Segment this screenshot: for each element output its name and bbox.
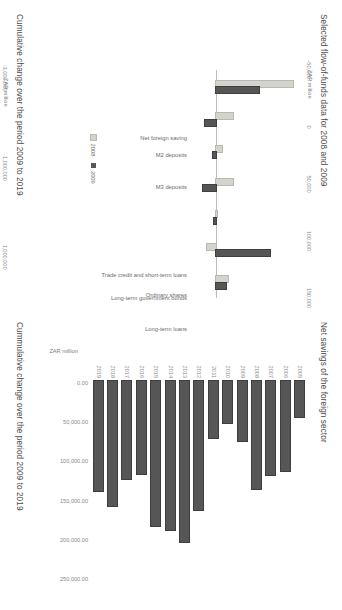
chart-legend: 2008 2009 (90, 134, 97, 184)
plot-area: 2005200620072008200920102011201220132014… (92, 380, 308, 576)
bar-2011: 2011 (208, 380, 219, 439)
y-axis-ticks: -3,000,000-1,000,0001,000,000 (0, 78, 8, 284)
y-axis-ticks: -50,000050,000100,000150,000 (302, 70, 312, 298)
y-tick-label: 0 (306, 125, 312, 128)
y-tick-label: 1,000,000 (2, 245, 8, 270)
category-label-2019: 2019 (94, 366, 103, 378)
category-label-2: M3 deposits (156, 185, 187, 191)
bar-2013: 2013 (179, 380, 190, 543)
category-label-2013: 2013 (180, 366, 189, 378)
bar-2009-6 (215, 282, 227, 290)
y-tick-label: -1,000,000 (2, 154, 8, 181)
bar-2009-0 (215, 86, 260, 94)
chart-net-savings-foreign-sector: Net savings of the foreign sector 200520… (28, 318, 328, 596)
category-label-2016: 2016 (137, 366, 146, 378)
x-tick-label: 100,000.00 (60, 458, 88, 464)
legend-swatch-icon (90, 134, 97, 141)
bar-2009-2 (212, 151, 217, 159)
bar-2008-3 (215, 178, 234, 186)
y-tick-label: 50,000 (306, 175, 312, 192)
bar-2009-5 (215, 249, 271, 257)
y-tick-label: 100,000 (306, 231, 312, 251)
legend-swatch-icon (91, 163, 96, 168)
category-label-2007: 2007 (267, 366, 276, 378)
y-tick-label: -3,000,000 (2, 65, 8, 92)
chart-cumulative-instruments: Cumulative change over the period 2009 t… (0, 14, 24, 306)
x-axis-unit-label: ZAR million (49, 348, 78, 354)
bar-2009-4 (213, 217, 217, 225)
category-label-2012: 2012 (195, 366, 204, 378)
bar-2017: 2017 (122, 380, 133, 480)
legend-item-2009: 2009 (91, 163, 97, 183)
bar-2010: 2010 (222, 380, 233, 424)
category-label-2015: 2015 (151, 366, 160, 378)
category-label-2006: 2006 (281, 366, 290, 378)
x-tick-label: 200,000.00 (60, 537, 88, 543)
bar-2016: 2016 (136, 380, 147, 475)
bar-2019: 2019 (93, 380, 104, 492)
plot-area (189, 70, 301, 298)
rotated-page: Selected flow-of-funds data for 2008 and… (0, 0, 342, 610)
chart-title: Selected flow-of-funds data for 2008 and… (319, 14, 328, 186)
chart-title: Net savings of the foreign sector (319, 322, 328, 443)
bar-2009-1 (204, 119, 217, 127)
category-label-2010: 2010 (223, 366, 232, 378)
bar-2012: 2012 (194, 380, 205, 511)
bar-2014: 2014 (165, 380, 176, 531)
legend-item-2008: 2008 (90, 134, 97, 156)
chart-flow-of-funds-2008-2009: Selected flow-of-funds data for 2008 and… (28, 14, 328, 306)
category-label-2009: 2009 (238, 366, 247, 378)
bar-2006: 2006 (280, 380, 291, 472)
x-tick-label: 150,000.00 (60, 498, 88, 504)
bar-2008: 2008 (251, 380, 262, 490)
bar-2007: 2007 (266, 380, 277, 476)
bar-2018: 2018 (107, 380, 118, 507)
category-label-2005: 2005 (295, 366, 304, 378)
legend-label: 2008 (91, 144, 97, 157)
chart-title: Cummulative change over the period 2009 … (15, 322, 24, 511)
bar-2015: 2015 (150, 380, 161, 527)
category-label-2017: 2017 (123, 366, 132, 378)
x-tick-label: 50,000.00 (63, 419, 88, 425)
x-tick-label: 0.00 (77, 380, 88, 386)
bar-2005: 2005 (294, 380, 305, 418)
bar-2009: 2009 (237, 380, 248, 442)
legend-label: 2009 (91, 171, 97, 184)
category-label-2014: 2014 (166, 366, 175, 378)
y-tick-label: 150,000 (306, 288, 312, 308)
x-axis-ticks: 0.0050,000.00100,000.00150,000.00200,000… (58, 380, 88, 576)
category-label-1: M2 deposits (156, 152, 187, 158)
category-label-5: Ordinary shares (146, 292, 187, 298)
category-label-2011: 2011 (209, 366, 218, 378)
bar-2008-1 (215, 112, 234, 120)
page-sheet: Selected flow-of-funds data for 2008 and… (0, 0, 342, 610)
chart-title: Cumulative change over the period 2009 t… (15, 14, 24, 196)
category-label-0: Net foreign saving (140, 135, 187, 141)
bar-2009-3 (202, 184, 217, 192)
category-label-2008: 2008 (252, 366, 261, 378)
chart-cumulative-aggregates: Cummulative change over the period 2009 … (0, 318, 24, 596)
x-tick-label: 250,000.00 (60, 576, 88, 582)
category-label-3: Trade credit and short-term loans (102, 272, 188, 278)
category-label-2018: 2018 (108, 366, 117, 378)
y-tick-label: -50,000 (306, 61, 312, 80)
